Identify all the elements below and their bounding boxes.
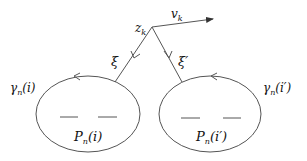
right-region-label: Pn(i′) (195, 129, 227, 146)
left-contour-label: γn(i) (10, 81, 36, 97)
diagram-canvas: zk vk ξ ξ′ γn(i) γn(i′) Pn(i) Pn(i′) (0, 0, 307, 161)
vertex-label: zk (134, 21, 146, 37)
left-edge-label: ξ (111, 54, 119, 69)
left-edge (115, 27, 152, 82)
right-edge-label: ξ′ (178, 54, 188, 69)
right-contour-label: γn(i′) (263, 81, 292, 97)
vector-label: vk (171, 7, 183, 23)
right-edge-arrow-icon (164, 51, 172, 58)
left-region-label: Pn(i) (73, 129, 102, 146)
